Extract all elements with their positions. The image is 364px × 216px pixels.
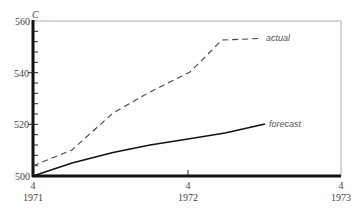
line-chart: 560 C 540 520 500 4 1971 4 1972 4 1973 a… (0, 0, 364, 216)
x-tick-quarter-1972: 4 (186, 180, 191, 191)
x-tick-quarter-1973: 4 (339, 180, 344, 191)
y-unit-label: C (32, 9, 39, 20)
series-actual-line (33, 39, 260, 166)
x-tick-year-1972: 1972 (178, 192, 198, 203)
x-tick-year-1971: 1971 (23, 192, 43, 203)
y-tick-label-560: 560 (15, 16, 30, 27)
x-tick-quarter-1971: 4 (31, 180, 36, 191)
y-tick-label-540: 540 (14, 68, 29, 79)
y-tick-label-520: 520 (14, 119, 29, 130)
y-tick-label-500: 500 (15, 171, 30, 182)
series-forecast-line (33, 124, 265, 176)
x-tick-year-1973: 1973 (331, 192, 351, 203)
series-actual-label: actual (266, 33, 291, 43)
series-forecast-label: forecast (269, 119, 302, 129)
